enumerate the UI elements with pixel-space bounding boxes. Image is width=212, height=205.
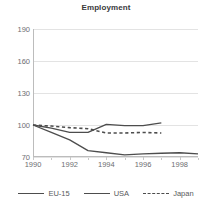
x-axis-tick-labels: 19901992199419961998: [33, 160, 198, 172]
y-tick-label-130: 130: [0, 89, 30, 98]
legend-swatch-dotted-line-icon: [143, 193, 169, 194]
series-layer: [33, 29, 198, 157]
y-tick-label-160: 160: [0, 57, 30, 66]
y-tick-label-100: 100: [0, 121, 30, 130]
legend-label: USA: [114, 189, 129, 198]
x-tick-label-1990: 1990: [25, 160, 42, 169]
plot-area: [33, 29, 198, 157]
x-tick-label-1994: 1994: [98, 160, 115, 169]
legend-item-usa[interactable]: USA: [84, 189, 129, 198]
legend-swatch-solid-line-icon: [84, 193, 110, 194]
legend-label: Japan: [173, 189, 193, 198]
chart-title: Employment: [0, 3, 212, 12]
x-tick-label-1996: 1996: [135, 160, 152, 169]
x-tick-minor-1999: [198, 158, 199, 160]
employment-line-chart: Employment 70100130160190 19901992199419…: [0, 0, 212, 205]
legend-label: EU-15: [48, 189, 69, 198]
legend-item-japan[interactable]: Japan: [143, 189, 193, 198]
chart-legend: EU-15USAJapan: [0, 185, 212, 201]
y-axis-tick-labels: 70100130160190: [0, 0, 30, 205]
gridline-y-70: [33, 157, 198, 158]
x-tick-label-1998: 1998: [171, 160, 188, 169]
legend-swatch-solid-line-icon: [18, 193, 44, 194]
x-tick-label-1992: 1992: [61, 160, 78, 169]
legend-item-eu-15[interactable]: EU-15: [18, 189, 69, 198]
y-tick-label-190: 190: [0, 25, 30, 34]
